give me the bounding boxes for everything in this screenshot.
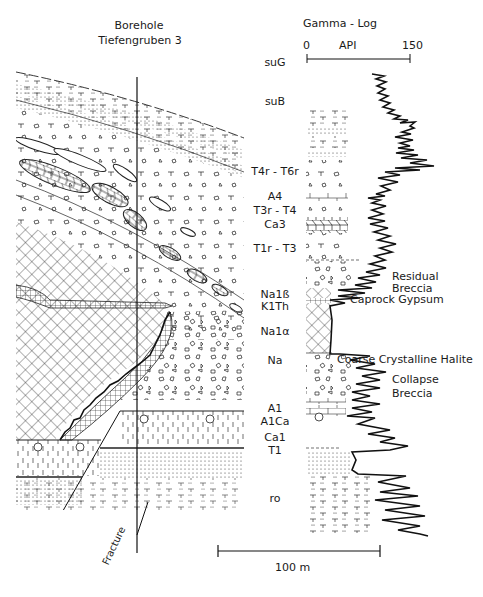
annotation-coarse-crystalline-halite: Coarse Crystalline Halite <box>337 354 473 366</box>
stratum-label-A1Ca: A1Ca <box>245 416 305 428</box>
stratum-label-T1r-T3: T1r - T3 <box>245 243 305 255</box>
borehole-title: Borehole <box>100 20 178 32</box>
gamma-axis-min: 0 <box>303 40 310 52</box>
stratum-label-T1: T1 <box>245 445 305 457</box>
cross-section-body <box>14 72 244 545</box>
stratum-label-Ca3: Ca3 <box>245 219 305 231</box>
scale-bar-label: 100 m <box>275 562 310 574</box>
lithology-column <box>306 108 372 533</box>
stratum-label-A1: A1 <box>245 403 305 415</box>
stratum-label-K1Th: K1Th <box>245 301 305 313</box>
gamma-axis-unit: API <box>339 40 356 52</box>
stratum-label-Ca1: Ca1 <box>245 432 305 444</box>
stratum-label-Na: Na <box>245 355 305 367</box>
gamma-axis <box>307 54 410 63</box>
borehole-name: Tiefengruben 3 <box>90 35 190 47</box>
stratum-label-A4: A4 <box>245 191 305 203</box>
stratum-label-ro: ro <box>245 493 305 505</box>
stratum-label-Na1a: Na1α <box>245 326 305 338</box>
gamma-axis-max: 150 <box>402 40 423 52</box>
gamma-log-title: Gamma - Log <box>303 18 377 30</box>
annotation-collapse-breccia-line2: Breccia <box>392 388 433 400</box>
scale-bar <box>218 545 380 557</box>
annotation-collapse-breccia-line1: Collapse <box>392 374 439 386</box>
stratum-label-T4r-T6r: T4r - T6r <box>245 166 305 178</box>
stratum-label-suG: suG <box>245 57 305 69</box>
annotation-caprock-gypsum: Caprock Gypsum <box>350 294 444 306</box>
stratum-label-T3r-T4: T3r - T4 <box>245 205 305 217</box>
stratum-label-suB: suB <box>245 96 305 108</box>
